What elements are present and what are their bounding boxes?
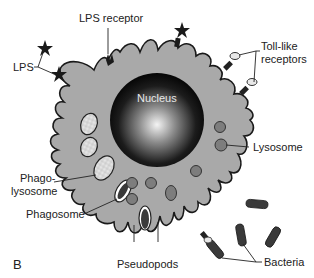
bacteria-leader	[222, 244, 262, 262]
label-phagolysosome-1: Phago-	[20, 172, 55, 184]
label-phagolysosome-2: lysosome	[11, 185, 57, 197]
panel-label: B	[13, 259, 22, 271]
label-lps-receptor: LPS receptor	[79, 12, 143, 24]
bound-lps-star-icon	[174, 22, 190, 38]
toll-like-leader	[239, 51, 260, 82]
label-toll-like-receptors-1: Toll-like	[261, 40, 298, 52]
engulfed-bacterium	[141, 209, 149, 229]
bacterium-receptor-head-icon	[204, 237, 212, 243]
label-phagosome: Phagosome	[26, 208, 85, 220]
lps-leader	[34, 50, 54, 74]
lps-star-icon	[37, 40, 53, 56]
nucleus	[110, 73, 204, 167]
label-lps: LPS	[13, 61, 34, 73]
bacteria	[205, 199, 282, 260]
label-pseudopods: Pseudopods	[117, 258, 178, 270]
label-bacteria: Bacteria	[264, 256, 304, 268]
label-lysosome: Lysosome	[253, 141, 303, 153]
label-toll-like-receptors-2: receptors	[261, 53, 307, 65]
label-nucleus: Nucleus	[137, 92, 177, 104]
